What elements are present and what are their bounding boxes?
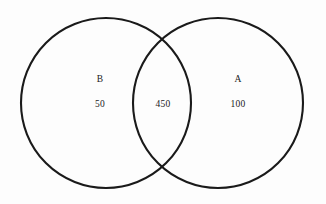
set-label-a: A bbox=[234, 75, 241, 85]
set-label-b: B bbox=[97, 75, 104, 85]
set-value-b-only: 50 bbox=[95, 100, 105, 110]
set-value-a-only: 100 bbox=[230, 100, 245, 110]
intersection-value: 450 bbox=[155, 100, 170, 110]
venn-diagram-figure: B 50 450 A 100 bbox=[0, 0, 326, 204]
